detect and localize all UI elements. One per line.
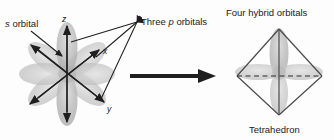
three-p-orbitals-label: Three p orbitals [141,16,207,27]
four-hybrid-orbitals-label: Four hybrid orbitals [226,7,308,18]
left-orbital-cluster: z x y [19,14,115,126]
right-tetrahedron-diagram [235,28,323,115]
s-orbital-label: s orbital [5,18,38,29]
axis-label-z: z [61,14,67,24]
tetrahedron-label: Tetrahedron [249,124,300,135]
transition-arrow [130,69,216,83]
figure-canvas: z x y s orbital Three p orbitals [0,0,334,140]
axis-label-y: y [106,104,112,114]
orbital-hybridization-figure: z x y s orbital Three p orbitals [0,0,334,140]
